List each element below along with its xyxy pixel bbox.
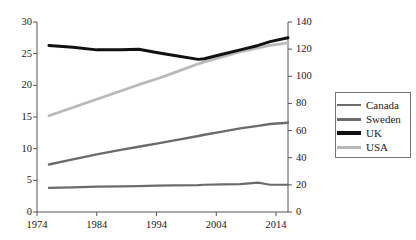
legend-item-sweden[interactable]: Sweden [336, 112, 410, 126]
x-axis-tick-label: 1984 [77, 220, 117, 231]
right-axis-tick-label: 0 [296, 207, 301, 218]
series-line-sweden [49, 123, 288, 165]
right-axis-tick-label: 80 [296, 98, 307, 109]
right-axis-tick-label: 20 [296, 180, 307, 191]
right-axis-tick-label: 100 [296, 71, 312, 82]
x-axis-tick-label: 2004 [196, 220, 236, 231]
chart-legend: CanadaSwedenUKUSA [335, 92, 411, 158]
legend-item-usa[interactable]: USA [336, 140, 410, 154]
legend-line-swatch-icon [336, 146, 362, 149]
left-axis-tick-label: 10 [4, 144, 32, 155]
legend-item-label: Sweden [362, 114, 401, 125]
left-axis-tick-label: 30 [4, 17, 32, 28]
right-axis-tick-label: 140 [296, 17, 312, 28]
legend-item-canada[interactable]: Canada [336, 98, 410, 112]
left-axis-tick-label: 0 [4, 207, 32, 218]
legend-item-label: UK [362, 128, 382, 139]
legend-line-swatch-icon [336, 104, 362, 106]
legend-item-label: Canada [362, 100, 399, 111]
legend-item-label: USA [362, 142, 388, 153]
x-axis-tick-label: 1994 [137, 220, 177, 231]
legend-line-swatch-icon [336, 118, 362, 121]
right-axis-tick-label: 120 [296, 44, 312, 55]
series-line-canada [49, 183, 288, 188]
line-chart-figure: 0510152025300204060801001201401974198419… [0, 0, 416, 240]
legend-item-uk[interactable]: UK [336, 126, 410, 140]
x-axis-tick-label: 1974 [17, 220, 57, 231]
right-axis-tick-label: 40 [296, 153, 307, 164]
left-axis-tick-label: 15 [4, 112, 32, 123]
x-axis-tick-label: 2014 [256, 220, 296, 231]
right-axis-tick-label: 60 [296, 126, 307, 137]
legend-line-swatch-icon [336, 131, 362, 135]
left-axis-tick-label: 20 [4, 80, 32, 91]
left-axis-tick-label: 25 [4, 49, 32, 60]
left-axis-tick-label: 5 [4, 175, 32, 186]
